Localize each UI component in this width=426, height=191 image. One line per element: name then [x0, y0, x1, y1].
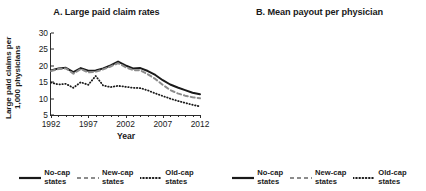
- panel-a-title: A. Large paid claim rates: [0, 7, 213, 17]
- panel-a-y-axis-label: Large paid claims per 1,000 physicians: [4, 30, 23, 125]
- x-tick-label: 1992: [42, 119, 61, 129]
- x-tick-mark-minor: [118, 115, 119, 117]
- y-tick-label: 20: [39, 61, 51, 71]
- x-tick-mark-major: [51, 115, 52, 118]
- legend-swatch-solid-icon: [19, 174, 41, 182]
- x-tick-mark-minor: [193, 115, 194, 117]
- x-tick-mark-minor: [178, 115, 179, 117]
- legend-item-old-cap: Old-cap states: [353, 169, 406, 186]
- x-tick-mark-minor: [185, 115, 186, 117]
- x-tick-label: 1997: [79, 119, 98, 129]
- series-line-new-cap-states: [51, 63, 200, 98]
- x-tick-mark-minor: [96, 115, 97, 117]
- legend-swatch-dotted-icon: [353, 174, 375, 182]
- legend-item-old-cap: Old-cap states: [140, 169, 193, 186]
- legend-label-old-cap: Old-cap states: [378, 169, 406, 186]
- legend-swatch-solid-icon: [232, 174, 254, 182]
- legend-label-no-cap: No-cap states: [44, 169, 70, 186]
- chart-panel-b: B. Mean payout per physician Payout per …: [213, 0, 426, 191]
- x-tick-mark-minor: [58, 115, 59, 117]
- x-tick-mark-minor: [103, 115, 104, 117]
- x-tick-mark-minor: [66, 115, 67, 117]
- panel-b-legend: No-cap states New-cap states Old-cap sta…: [213, 169, 426, 186]
- panel-a-legend: No-cap states New-cap states Old-cap sta…: [0, 169, 213, 186]
- y-tick-label: 10: [39, 94, 51, 104]
- chart-panel-a: A. Large paid claim rates Large paid cla…: [0, 0, 213, 191]
- legend-label-new-cap: New-cap states: [102, 169, 133, 186]
- x-tick-mark-major: [126, 115, 127, 118]
- series-line-old-cap-states: [51, 76, 200, 107]
- legend-label-no-cap: No-cap states: [257, 169, 283, 186]
- legend-item-new-cap: New-cap states: [77, 169, 133, 186]
- panel-a-plot-area: Year 5101520253019921997200220072012: [50, 33, 200, 116]
- x-tick-mark-minor: [148, 115, 149, 117]
- series-layer: [51, 33, 200, 115]
- legend-swatch-dashed-icon: [290, 174, 312, 182]
- x-tick-label: 2007: [153, 119, 172, 129]
- legend-swatch-dashed-icon: [77, 174, 99, 182]
- x-tick-mark-minor: [170, 115, 171, 117]
- y-tick-label: 15: [39, 77, 51, 87]
- x-tick-mark-minor: [140, 115, 141, 117]
- x-tick-mark-minor: [111, 115, 112, 117]
- x-tick-mark-minor: [73, 115, 74, 117]
- legend-label-new-cap: New-cap states: [315, 169, 346, 186]
- x-tick-mark-major: [163, 115, 164, 118]
- legend-item-new-cap: New-cap states: [290, 169, 346, 186]
- legend-swatch-dotted-icon: [140, 174, 162, 182]
- panel-b-title: B. Mean payout per physician: [213, 7, 426, 17]
- x-tick-mark-major: [88, 115, 89, 118]
- x-tick-mark-minor: [81, 115, 82, 117]
- y-tick-label: 30: [39, 28, 51, 38]
- x-tick-label: 2002: [116, 119, 135, 129]
- x-tick-label: 2012: [191, 119, 210, 129]
- figure-root: A. Large paid claim rates Large paid cla…: [0, 0, 426, 191]
- legend-label-old-cap: Old-cap states: [165, 169, 193, 186]
- legend-item-no-cap: No-cap states: [19, 169, 70, 186]
- x-tick-mark-minor: [155, 115, 156, 117]
- x-tick-mark-minor: [133, 115, 134, 117]
- y-tick-label: 25: [39, 44, 51, 54]
- legend-item-no-cap: No-cap states: [232, 169, 283, 186]
- x-tick-mark-major: [200, 115, 201, 118]
- panel-a-x-axis-label: Year: [51, 131, 201, 141]
